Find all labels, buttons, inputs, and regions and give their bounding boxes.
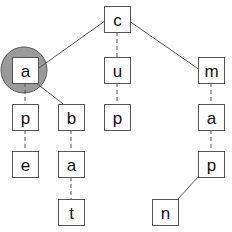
- trie-node-p1: p: [13, 105, 39, 131]
- trie-diagram: caumpbpaeaptn: [0, 0, 232, 232]
- trie-node-e: e: [13, 152, 39, 178]
- trie-node-b: b: [59, 105, 85, 131]
- node-label: p: [207, 156, 216, 175]
- trie-node-a2: a: [199, 105, 225, 131]
- trie-node-u: u: [105, 58, 131, 84]
- node-label: e: [21, 156, 30, 175]
- node-label: c: [113, 11, 122, 30]
- node-label: a: [67, 156, 77, 175]
- node-label: n: [161, 204, 170, 223]
- node-label: u: [113, 62, 122, 81]
- trie-node-p3: p: [199, 152, 225, 178]
- trie-node-t: t: [59, 200, 85, 226]
- node-label: m: [204, 62, 218, 81]
- node-label: t: [69, 204, 74, 223]
- trie-node-m: m: [199, 58, 225, 84]
- trie-node-a1: a: [13, 58, 39, 84]
- node-label: a: [21, 62, 31, 81]
- trie-node-n: n: [153, 200, 179, 226]
- node-label: p: [21, 109, 30, 128]
- trie-node-p2: p: [105, 105, 131, 131]
- trie-node-a3: a: [59, 152, 85, 178]
- trie-node-c: c: [105, 7, 131, 33]
- node-label: p: [113, 109, 122, 128]
- node-label: b: [67, 109, 76, 128]
- node-label: a: [207, 109, 217, 128]
